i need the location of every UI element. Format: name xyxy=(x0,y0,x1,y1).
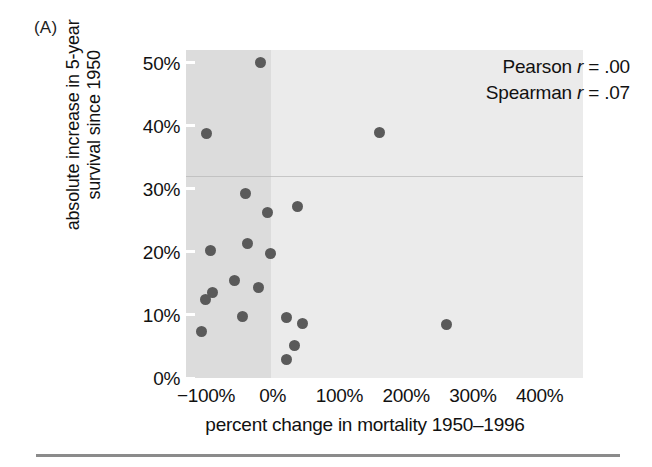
y-tick-label: 20% xyxy=(143,242,180,261)
scatter-point xyxy=(292,201,303,212)
x-tick-label: 100% xyxy=(316,386,363,405)
spearman-statistic: Spearman r = .07 xyxy=(486,80,630,106)
correlation-annotation: Pearson r = .00 Spearman r = .07 xyxy=(486,54,630,105)
x-tick-label: 0% xyxy=(259,386,286,405)
faint-horizontal-rule xyxy=(186,176,583,177)
pearson-label: Pearson xyxy=(503,56,577,77)
spearman-label: Spearman xyxy=(486,82,577,103)
x-axis-tick-labels: −100%0%100%200%300%400% xyxy=(186,386,583,412)
scatter-point xyxy=(441,319,452,330)
x-tick-label: −100% xyxy=(177,386,235,405)
y-tick-mark xyxy=(186,124,195,127)
y-tick-label: 10% xyxy=(143,305,180,324)
panel-letter: (A) xyxy=(34,18,57,38)
y-tick-mark xyxy=(186,313,195,316)
figure-divider-rule xyxy=(36,454,620,457)
scatter-point xyxy=(265,248,276,259)
scatter-point xyxy=(289,340,300,351)
spearman-value: = .07 xyxy=(583,82,630,103)
y-axis-title: absolute increase in 5-year survival sin… xyxy=(63,0,105,275)
scatter-point xyxy=(201,128,212,139)
y-tick-mark xyxy=(186,377,195,379)
scatter-point xyxy=(281,354,292,365)
scatter-point xyxy=(242,238,253,249)
pearson-value: = .00 xyxy=(583,56,630,77)
scatter-point xyxy=(240,188,251,199)
pearson-statistic: Pearson r = .00 xyxy=(486,54,630,80)
x-axis-title: percent change in mortality 1950–1996 xyxy=(130,414,600,436)
x-tick-label: 400% xyxy=(516,386,563,405)
y-tick-label: 40% xyxy=(143,116,180,135)
y-tick-label: 50% xyxy=(143,53,180,72)
x-tick-label: 200% xyxy=(382,386,429,405)
scatter-point xyxy=(253,282,264,293)
scatter-point xyxy=(196,326,207,337)
scatter-point xyxy=(229,275,240,286)
scatter-point xyxy=(297,318,308,329)
y-tick-mark xyxy=(186,61,195,64)
scatter-point xyxy=(374,127,385,138)
figure-panel-a: (A) 0%10%20%30%40%50% −100%0%100%200%300… xyxy=(0,0,652,467)
scatter-point xyxy=(200,294,211,305)
y-tick-mark xyxy=(186,250,195,253)
scatter-point xyxy=(281,312,292,323)
y-tick-mark xyxy=(186,187,195,190)
y-axis-title-line-2: survival since 1950 xyxy=(84,0,105,275)
scatter-point xyxy=(262,207,273,218)
y-axis-title-line-1: absolute increase in 5-year xyxy=(63,0,84,275)
y-tick-label: 30% xyxy=(143,179,180,198)
x-tick-label: 300% xyxy=(449,386,496,405)
